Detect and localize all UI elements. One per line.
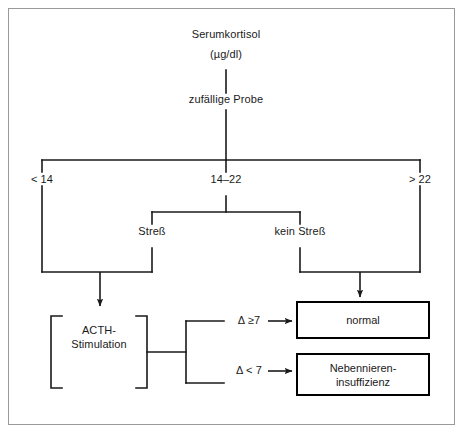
branch-label-mid: 14–22 [196,173,256,186]
result-insufficiency-text: Nebennieren- insuffizienz [330,361,397,389]
delta-low-label: Δ < 7 [226,364,272,377]
diagram-units: (µg/dl) [176,48,276,61]
result-insufficiency-line1: Nebennieren- [330,362,397,374]
result-box-normal: normal [296,301,430,339]
acth-label-line1: ACTH- [60,324,138,337]
stress-yes-label: Streß [122,225,182,238]
result-insufficiency-line2: insuffizienz [336,376,390,388]
branch-label-low: < 14 [12,173,72,186]
sample-label: zufällige Probe [166,93,286,106]
diagram-page: Serumkortisol (µg/dl) zufällige Probe < … [0,0,464,434]
result-normal-text: normal [346,313,380,327]
diagram-title: Serumkortisol [176,28,276,41]
acth-label-line2: Stimulation [60,338,138,351]
delta-high-label: Δ ≥7 [226,314,272,327]
stress-no-label: kein Streß [262,225,338,238]
result-box-insufficiency: Nebennieren- insuffizienz [296,353,430,396]
branch-label-high: > 22 [390,173,450,186]
